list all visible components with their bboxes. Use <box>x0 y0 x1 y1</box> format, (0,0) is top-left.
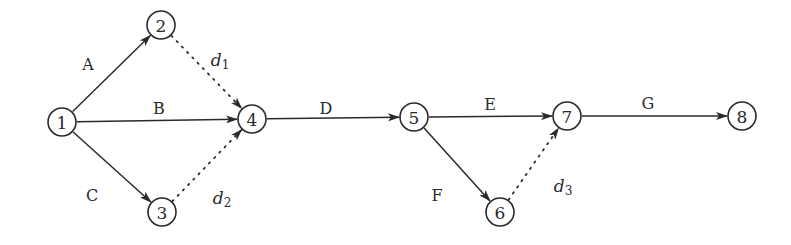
edge-label-5-7: E <box>484 95 496 114</box>
activity-edge-4-5 <box>267 117 399 119</box>
node-label: 5 <box>409 108 420 128</box>
network-diagram: 12345678 ABCd1d2DEFd3G <box>0 0 791 245</box>
node-label: 2 <box>156 16 167 36</box>
edge-label-1-4: B <box>153 99 165 118</box>
diagram-svg: 12345678 ABCd1d2DEFd3G <box>0 0 791 245</box>
node-label: 4 <box>247 110 258 130</box>
activity-edge-1-4 <box>77 119 237 122</box>
node-7: 7 <box>553 102 581 130</box>
node-3: 3 <box>148 198 176 226</box>
activity-edge-1-2 <box>73 35 151 111</box>
node-1: 1 <box>48 108 76 136</box>
node-5: 5 <box>400 103 428 131</box>
node-label: 6 <box>495 203 506 223</box>
node-4: 4 <box>238 105 266 133</box>
edge-label-6-7: d3 <box>554 176 573 198</box>
edge-label-4-5: D <box>320 99 333 118</box>
node-label: 1 <box>57 113 68 133</box>
activity-edge-1-3 <box>73 132 151 202</box>
edge-label-3-4: d2 <box>213 188 232 210</box>
node-label: 3 <box>157 203 168 223</box>
edge-label-1-3: C <box>86 186 98 205</box>
dummy-edge-3-4 <box>172 130 241 201</box>
node-6: 6 <box>486 198 514 226</box>
dummy-edge-6-7 <box>509 128 559 199</box>
edge-label-5-6: F <box>431 186 442 205</box>
edge-label-7-8: G <box>642 94 655 113</box>
dummy-edge-2-4 <box>171 36 241 108</box>
edge-label-1-2: A <box>81 55 94 74</box>
edge-label-2-4: d1 <box>211 50 230 72</box>
node-label: 7 <box>562 107 573 127</box>
node-2: 2 <box>147 11 175 39</box>
nodes-layer: 12345678 <box>48 11 756 226</box>
activity-edge-5-7 <box>429 116 552 117</box>
node-label: 8 <box>737 107 748 127</box>
node-8: 8 <box>728 102 756 130</box>
